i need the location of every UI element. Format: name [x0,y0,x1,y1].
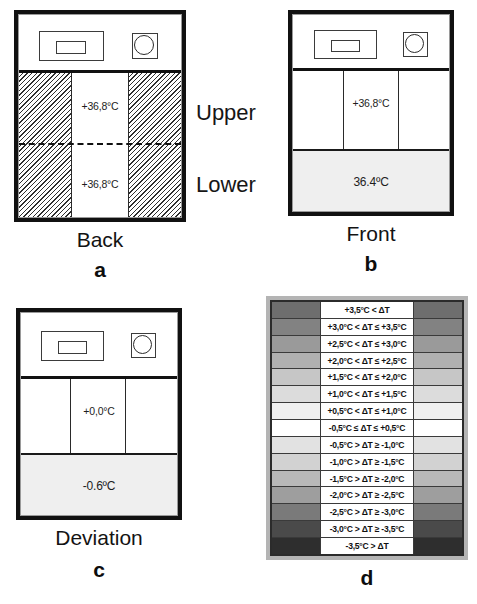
legend-row: -2,5°C > ΔT ≥ -3,0°C [272,504,462,521]
legend-range-label: -2,0°C > ΔT ≥ -2,5°C [321,487,412,503]
legend-swatch-left [272,420,321,436]
panel-a-letter: a [14,258,186,282]
panel-c-deviation: +0,0°C -0.6ºC [16,308,182,520]
legend-range-label: +3,5°C < ΔT [321,302,412,318]
legend-row: -2,0°C > ΔT ≥ -2,5°C [272,487,462,504]
panel-a-caption: Back [14,228,186,252]
label-lower: Lower [196,172,256,198]
circle-device-icon [132,33,158,59]
legend-row: -1,0°C > ΔT ≥ -1,5°C [272,454,462,471]
legend-row: -1,5°C > ΔT ≥ -2,0°C [272,471,462,488]
legend-swatch-left [272,437,321,453]
panel-c-inner: +0,0°C -0.6ºC [20,312,178,516]
panel-b-lower-band: 36.4ºC [293,149,449,211]
circle-device-icon [131,333,156,358]
legend-range-label: -3,5°C > ΔT [321,538,412,554]
panel-a-hatch-left [19,73,71,217]
circle-device-icon [403,32,428,57]
legend-swatch-right [413,521,462,537]
legend-range-label: +3,0°C < ΔT ≤ +3,5°C [321,319,412,335]
panel-a-lower-temp-label: +36,8°C [19,178,181,190]
legend-range-label: -0,5°C > ΔT ≥ -1,0°C [321,437,412,453]
legend-swatch-right [413,353,462,369]
legend-range-label: +2,0°C < ΔT ≤ +2,5°C [321,353,412,369]
panel-a-upper-lower-divider [19,143,181,145]
circle-device-inner-icon [405,34,424,53]
legend-range-label: -1,0°C > ΔT ≥ -1,5°C [321,454,412,470]
panel-c-lower-temp-label: -0.6ºC [21,479,177,493]
panel-b-divider-left [343,71,344,149]
panel-b-lower-temp-label: 36.4ºC [293,175,449,189]
legend-range-label: -1,5°C > ΔT ≥ -2,0°C [321,471,412,487]
rectangle-device-inner-icon [331,40,360,52]
legend-swatch-left [272,471,321,487]
legend-row: +3,5°C < ΔT [272,302,462,319]
legend-swatch-left [272,319,321,335]
panel-a-center-column [71,73,129,217]
panel-b-divider-right [398,71,399,149]
panel-b-body-zone: +36,8°C 36.4ºC [293,71,449,211]
legend-swatch-right [413,420,462,436]
legend-swatch-right [413,487,462,503]
legend-row: +2,5°C < ΔT ≤ +3,0°C [272,336,462,353]
legend-swatch-right [413,437,462,453]
rectangle-device-icon [314,30,377,59]
rectangle-device-inner-icon [58,341,87,354]
legend-swatch-left [272,454,321,470]
legend-swatch-left [272,403,321,419]
panel-b-head-zone [293,15,449,71]
legend-swatch-right [413,336,462,352]
legend-row: -0,5°C ≤ ΔT ≤ +0,5°C [272,420,462,437]
circle-device-inner-icon [134,35,154,55]
legend-swatch-left [272,369,321,385]
rectangle-device-icon [41,331,104,361]
legend-swatch-right [413,538,462,554]
legend-range-label: +0,5°C < ΔT ≤ +1,0°C [321,403,412,419]
panel-b-front: +36,8°C 36.4ºC [288,10,454,216]
legend-swatch-right [413,302,462,318]
legend-rows-container: +3,5°C < ΔT+3,0°C < ΔT ≤ +3,5°C+2,5°C < … [270,300,464,556]
legend-swatch-left [272,521,321,537]
legend-swatch-left [272,336,321,352]
legend-row: -3,0°C > ΔT ≥ -3,5°C [272,521,462,538]
panel-d-letter: d [266,566,468,590]
panel-a-back: +36,8°C +36,8°C [14,10,186,222]
rectangle-device-icon [39,31,104,61]
panel-c-caption: Deviation [16,526,182,550]
legend-swatch-left [272,487,321,503]
legend-row: +1,0°C < ΔT ≤ +1,5°C [272,386,462,403]
panel-b-caption: Front [288,222,454,246]
panel-a-body-zone: +36,8°C +36,8°C [19,73,181,217]
legend-swatch-left [272,504,321,520]
legend-row: -0,5°C > ΔT ≥ -1,0°C [272,437,462,454]
panel-a-head-zone [19,15,181,73]
legend-range-label: -2,5°C > ΔT ≥ -3,0°C [321,504,412,520]
legend-swatch-right [413,471,462,487]
legend-swatch-left [272,386,321,402]
label-upper: Upper [196,100,256,126]
panel-b-letter: b [288,252,454,276]
panel-b-upper-temp-label: +36,8°C [293,97,449,109]
legend-range-label: +2,5°C < ΔT ≤ +3,0°C [321,336,412,352]
panel-a-inner: +36,8°C +36,8°C [18,14,182,218]
panel-d-legend: +3,5°C < ΔT+3,0°C < ΔT ≤ +3,5°C+2,5°C < … [266,296,468,560]
legend-row: -3,5°C > ΔT [272,538,462,554]
legend-range-label: -0,5°C ≤ ΔT ≤ +0,5°C [321,420,412,436]
panel-c-body-zone: +0,0°C -0.6ºC [21,379,177,515]
panel-c-upper-temp-label: +0,0°C [21,405,177,417]
legend-row: +2,0°C < ΔT ≤ +2,5°C [272,353,462,370]
legend-swatch-right [413,386,462,402]
legend-swatch-left [272,538,321,554]
legend-swatch-left [272,353,321,369]
panel-c-head-zone [21,313,177,379]
circle-device-inner-icon [133,335,152,354]
legend-swatch-right [413,369,462,385]
legend-range-label: -3,0°C > ΔT ≥ -3,5°C [321,521,412,537]
panel-a-upper-temp-label: +36,8°C [19,100,181,112]
panel-c-lower-band: -0.6ºC [21,453,177,515]
panel-b-inner: +36,8°C 36.4ºC [292,14,450,212]
legend-range-label: +1,5°C < ΔT ≤ +2,0°C [321,369,412,385]
legend-swatch-right [413,454,462,470]
panel-c-letter: c [16,558,182,582]
rectangle-device-inner-icon [56,41,86,54]
